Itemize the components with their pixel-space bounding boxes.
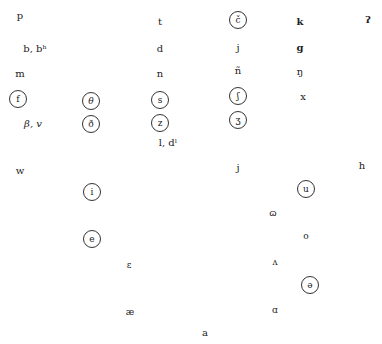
phoneme-h: h xyxy=(359,161,365,171)
vowel-schwa-circled: ə xyxy=(301,276,319,294)
vowel-script-a: ɑ xyxy=(272,306,278,315)
vowel-wedge: ʌ xyxy=(272,258,277,267)
phoneme-z: z xyxy=(158,119,163,128)
phoneme-glottal-stop: ʔ xyxy=(365,15,371,25)
phoneme-theta-circled: θ xyxy=(82,92,100,110)
vowel-e: e xyxy=(89,235,94,244)
phoneme-d: d xyxy=(157,44,163,54)
vowel-epsilon: ɛ xyxy=(127,261,132,270)
phoneme-z-circled: z xyxy=(151,114,169,132)
phoneme-n-tilde: ñ xyxy=(235,66,241,76)
phoneme-t: t xyxy=(158,17,162,27)
phoneme-esh: ʃ xyxy=(237,92,239,101)
phoneme-f: f xyxy=(16,95,19,104)
phoneme-k: k xyxy=(297,17,304,27)
phoneme-esh-circled: ʃ xyxy=(229,87,247,105)
phoneme-eng: ŋ xyxy=(297,67,303,77)
phoneme-n: n xyxy=(157,69,163,79)
phoneme-s-circled: s xyxy=(151,91,169,109)
vowel-upsilon: ɷ xyxy=(269,209,276,218)
phoneme-glide-j: j xyxy=(236,163,239,173)
phoneme-theta: θ xyxy=(88,97,93,106)
vowel-e-circled: e xyxy=(83,230,101,248)
phoneme-p: p xyxy=(17,11,23,21)
vowel-u-circled: u xyxy=(297,180,315,198)
phoneme-j: j xyxy=(236,43,239,53)
vowel-i: i xyxy=(91,188,94,197)
phoneme-w: w xyxy=(16,166,25,176)
phoneme-beta-v: β, v xyxy=(24,119,42,129)
phoneme-m: m xyxy=(15,69,24,79)
phoneme-l: l, dˡ xyxy=(159,138,177,148)
phoneme-inventory: { "consonants": { "row1": {"p": "p", "t"… xyxy=(0,0,382,344)
vowel-schwa: ə xyxy=(307,281,312,290)
phoneme-s: s xyxy=(158,96,163,105)
phoneme-ezh: ʒ xyxy=(235,116,240,125)
phoneme-eth-circled: ð xyxy=(82,115,100,133)
phoneme-c-hacek-circled: č xyxy=(229,11,247,29)
vowel-ash: æ xyxy=(126,308,134,317)
vowel-i-circled: i xyxy=(83,183,101,201)
phoneme-b: b, bʰ xyxy=(23,44,47,54)
phoneme-x: x xyxy=(300,92,306,102)
phoneme-c-hacek: č xyxy=(235,16,240,25)
phoneme-eth: ð xyxy=(88,120,93,129)
phoneme-ezh-circled: ʒ xyxy=(229,111,247,129)
phoneme-f-circled: f xyxy=(9,90,27,108)
phoneme-g: g xyxy=(297,43,304,53)
vowel-o: o xyxy=(303,232,308,241)
vowel-u: u xyxy=(303,185,309,194)
vowel-a: a xyxy=(202,328,208,338)
